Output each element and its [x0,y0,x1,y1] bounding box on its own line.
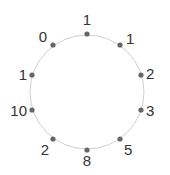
node-label: 1 [126,30,134,47]
node-label: 10 [10,102,27,119]
ring-outline [30,35,144,149]
node-dot [29,107,34,112]
node-label: 2 [41,141,49,158]
node-dot [117,136,122,141]
node-dot [117,42,122,47]
node-label: 3 [146,102,154,119]
node-label: 0 [39,28,47,45]
node-dot [138,107,143,112]
node-dot [138,72,143,77]
node-label: 1 [83,11,91,28]
node-label: 1 [19,66,27,83]
node-dot [50,42,55,47]
node-label: 8 [83,152,91,169]
node-dot [50,136,55,141]
node-label: 5 [124,141,132,158]
node-dot [29,72,34,77]
circular-diagram: 11235821010 [0,0,170,175]
node-label: 2 [146,65,154,82]
node-dot [84,31,89,36]
